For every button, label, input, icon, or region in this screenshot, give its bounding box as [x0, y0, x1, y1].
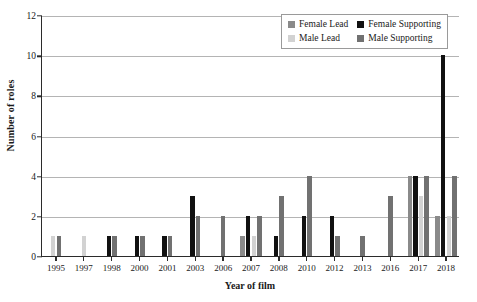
- bar: [307, 176, 311, 256]
- legend-label: Female Lead: [299, 18, 348, 30]
- bar: [112, 236, 116, 256]
- bar-group: [237, 16, 265, 256]
- legend-swatch-icon: [288, 21, 295, 28]
- x-tick-mark: [111, 256, 112, 261]
- bar-group: [181, 16, 209, 256]
- x-tick-mark: [195, 256, 196, 261]
- bar: [452, 176, 456, 256]
- bar: [162, 236, 166, 256]
- x-tick-label: 2016: [381, 263, 399, 273]
- bar: [408, 176, 412, 256]
- x-tick-label: 2018: [437, 263, 455, 273]
- bar: [335, 236, 339, 256]
- legend-swatch-icon: [288, 35, 295, 42]
- bar: [274, 236, 278, 256]
- x-tick-mark: [250, 256, 251, 261]
- x-tick-mark: [222, 256, 223, 261]
- x-tick-label: 2007: [242, 263, 260, 273]
- x-tick-mark: [418, 256, 419, 261]
- bar: [135, 236, 139, 256]
- bar: [447, 216, 451, 256]
- bar-group: [209, 16, 237, 256]
- x-tick-label: 2008: [270, 263, 288, 273]
- x-tick-label: 2000: [131, 263, 149, 273]
- legend-item: Male Supporting: [357, 32, 441, 44]
- x-tick-mark: [55, 256, 56, 261]
- x-tick-mark: [83, 256, 84, 261]
- bar-group: [349, 16, 377, 256]
- bar: [388, 196, 392, 256]
- bar: [279, 196, 283, 256]
- y-tick-label: 4: [31, 172, 36, 182]
- x-tick-label: 2003: [186, 263, 204, 273]
- bar-group: [70, 16, 98, 256]
- x-tick-mark: [306, 256, 307, 261]
- x-tick-mark: [390, 256, 391, 261]
- legend-item: Female Lead: [288, 18, 348, 30]
- bar: [441, 55, 445, 256]
- bar-group: [321, 16, 349, 256]
- bar: [246, 216, 250, 256]
- bar: [424, 176, 428, 256]
- bar-group: [376, 16, 404, 256]
- x-tick-label: 2012: [326, 263, 344, 273]
- x-tick-mark: [278, 256, 279, 261]
- bar: [240, 236, 244, 256]
- x-tick-mark: [139, 256, 140, 261]
- y-tick-label: 8: [31, 91, 36, 101]
- x-tick-label: 2010: [298, 263, 316, 273]
- x-tick-mark: [445, 256, 446, 261]
- legend-item: Female Supporting: [357, 18, 441, 30]
- bar: [302, 216, 306, 256]
- plot-area: 0246810121995199719982000200120032006200…: [41, 16, 459, 257]
- bar-group: [432, 16, 460, 256]
- y-tick-label: 6: [31, 132, 36, 142]
- x-axis-title: Year of film: [41, 280, 459, 291]
- y-tick-label: 2: [31, 212, 36, 222]
- bar: [190, 196, 194, 256]
- legend-item: Male Lead: [288, 32, 348, 44]
- x-tick-label: 1998: [103, 263, 121, 273]
- bar-group: [293, 16, 321, 256]
- y-tick-label: 12: [27, 11, 37, 21]
- bar: [196, 216, 200, 256]
- x-tick-label: 2001: [158, 263, 176, 273]
- bar: [360, 236, 364, 256]
- bar: [107, 236, 111, 256]
- legend-label: Male Lead: [299, 32, 340, 44]
- chart-legend: Female LeadFemale SupportingMale LeadMal…: [281, 14, 448, 49]
- bar: [330, 216, 334, 256]
- legend-swatch-icon: [357, 35, 364, 42]
- bar-group: [42, 16, 70, 256]
- legend-label: Female Supporting: [368, 18, 441, 30]
- bar: [257, 216, 261, 256]
- bar: [82, 236, 86, 256]
- x-tick-mark: [334, 256, 335, 261]
- x-tick-label: 2013: [353, 263, 371, 273]
- bar: [419, 196, 423, 256]
- bar-group: [153, 16, 181, 256]
- bar-chart: Number of roles 024681012199519971998200…: [0, 0, 477, 302]
- y-axis-title: Number of roles: [2, 0, 18, 230]
- bar-group: [265, 16, 293, 256]
- bar-group: [404, 16, 432, 256]
- y-tick-label: 0: [31, 252, 36, 262]
- bar: [221, 216, 225, 256]
- y-tick-label: 10: [27, 51, 37, 61]
- x-tick-label: 2017: [409, 263, 427, 273]
- x-tick-label: 1995: [47, 263, 65, 273]
- bar-group: [126, 16, 154, 256]
- bar: [252, 236, 256, 256]
- x-tick-mark: [167, 256, 168, 261]
- legend-swatch-icon: [357, 21, 364, 28]
- bar: [168, 236, 172, 256]
- y-tick-mark: [37, 256, 42, 257]
- x-tick-label: 2006: [214, 263, 232, 273]
- bar: [57, 236, 61, 256]
- bar: [140, 236, 144, 256]
- legend-label: Male Supporting: [368, 32, 432, 44]
- bar: [435, 216, 439, 256]
- bar: [413, 176, 417, 256]
- x-tick-label: 1997: [75, 263, 93, 273]
- bar-group: [98, 16, 126, 256]
